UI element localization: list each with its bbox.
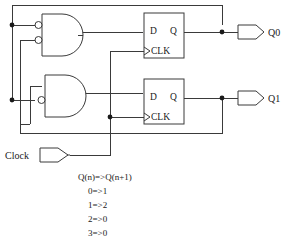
d-flipflop-top-clk-label: CLK [151, 46, 170, 56]
d-flipflop-bottom-d-label: D [150, 92, 157, 102]
inverter-bubble-top-in1 [35, 22, 42, 29]
and-gate-bottom[interactable] [38, 75, 86, 117]
output-port-q1[interactable]: Q1 [238, 91, 280, 105]
inverter-bubble-bottom-in2 [38, 97, 45, 104]
inverter-bubble-top-in2 [35, 37, 42, 44]
d-flipflop-bottom-clk-label: CLK [151, 112, 170, 122]
output-port-q0[interactable]: Q0 [238, 25, 280, 39]
junction-q0-output [220, 30, 225, 35]
output-port-q1-label: Q1 [268, 93, 280, 104]
output-port-q0-shape [238, 25, 264, 39]
circuit-diagram-canvas: D Q CLK D Q CLK Q0 Q1 Clock [0, 0, 284, 242]
and-gate-top[interactable] [35, 14, 83, 56]
d-flipflop-top-q-label: Q [170, 26, 177, 36]
note-line-3: 3=>0 [88, 228, 108, 238]
junction-q0-bottom-left [10, 98, 15, 103]
and-gate-bottom-body [45, 75, 86, 117]
input-port-clock-shape [40, 148, 68, 162]
d-flipflop-bottom-q-label: Q [170, 92, 177, 102]
note-line-2: 2=>0 [88, 214, 108, 224]
note-heading: Q(n)=>Q(n+1) [78, 172, 132, 182]
circuit-schematic: D Q CLK D Q CLK Q0 Q1 Clock [0, 0, 284, 242]
junction-q0-left [10, 23, 15, 28]
state-transition-note: Q(n)=>Q(n+1) 0=>1 1=>2 2=>0 3=>0 [78, 172, 132, 238]
note-line-0: 0=>1 [88, 186, 107, 196]
d-flipflop-top[interactable]: D Q CLK [144, 13, 184, 58]
d-flipflop-top-d-label: D [150, 26, 157, 36]
output-port-q0-label: Q0 [268, 27, 280, 38]
junction-q1-output [220, 96, 225, 101]
d-flipflop-bottom[interactable]: D Q CLK [144, 79, 184, 124]
note-line-1: 1=>2 [88, 200, 107, 210]
junction-clock-tap [108, 115, 113, 120]
input-port-clock-label: Clock [5, 150, 29, 161]
output-port-q1-shape [238, 91, 264, 105]
input-port-clock[interactable]: Clock [5, 148, 68, 162]
and-gate-top-body [42, 14, 83, 56]
